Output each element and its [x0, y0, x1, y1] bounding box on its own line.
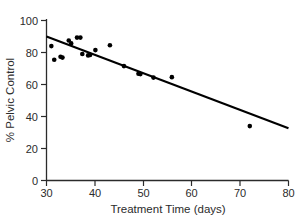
x-axis-title: Treatment Time (days): [110, 203, 225, 215]
y-tick-label-60: 60: [26, 79, 38, 91]
x-tick-label-70: 70: [234, 187, 246, 199]
x-tick-label-40: 40: [89, 187, 101, 199]
x-tick-label-30: 30: [40, 187, 52, 199]
x-tick-label-80: 80: [282, 187, 294, 199]
data-point: [49, 44, 54, 49]
data-point: [247, 124, 252, 129]
x-axis-ticks: [47, 181, 289, 187]
data-point: [138, 72, 143, 77]
y-tick-label-40: 40: [26, 111, 38, 123]
x-tick-label-50: 50: [137, 187, 149, 199]
data-point: [60, 55, 65, 60]
data-point: [170, 75, 175, 80]
data-point: [78, 35, 83, 40]
regression-line: [47, 37, 289, 129]
chart-figure: 0 20 40 60 80 100 30 40 50 60 70 80 Trea…: [0, 0, 299, 218]
y-axis-ticks: [41, 21, 47, 181]
data-point: [80, 52, 85, 57]
y-axis-title: % Pelvic Control: [4, 58, 16, 142]
data-point: [52, 57, 57, 62]
y-tick-label-80: 80: [26, 47, 38, 59]
y-tick-label-20: 20: [26, 143, 38, 155]
scatter-plot-svg: 0 20 40 60 80 100 30 40 50 60 70 80 Trea…: [0, 0, 299, 218]
y-tick-label-100: 100: [20, 15, 38, 27]
data-point: [69, 41, 74, 46]
data-point: [108, 43, 113, 48]
x-tick-label-60: 60: [185, 187, 197, 199]
y-tick-label-0: 0: [32, 175, 38, 187]
data-point: [151, 75, 156, 80]
data-point: [122, 64, 127, 69]
data-point: [93, 48, 98, 53]
data-point: [88, 53, 93, 58]
